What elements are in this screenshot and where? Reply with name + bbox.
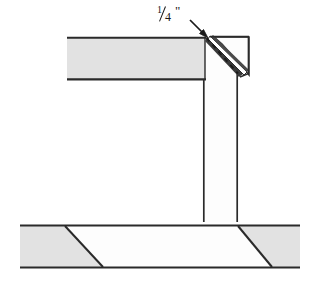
quarter-inch-dimension-label: 1 4 " <box>157 6 179 23</box>
diagram-canvas <box>0 0 319 299</box>
inch-mark: " <box>175 3 180 18</box>
fraction-denominator: 4 <box>165 11 171 23</box>
base-board <box>20 225 300 268</box>
technical-diagram: 1 4 " <box>0 0 319 299</box>
dimension-leader-arrow <box>190 20 208 38</box>
horizontal-beam <box>67 37 206 80</box>
horizontal-beam-face <box>67 37 205 80</box>
fraction-one-quarter: 1 4 <box>157 6 174 23</box>
